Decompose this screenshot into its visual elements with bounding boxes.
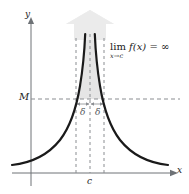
limit-approach-subscript: x→c <box>110 53 169 60</box>
limit-expression: lim f(x) = ∞ <box>110 42 169 52</box>
x-axis-label: x <box>177 166 182 175</box>
limit-annotation: lim f(x) = ∞ x→c <box>110 42 169 60</box>
infinite-limit-figure: y x M c δ δ lim f(x) = ∞ x→c <box>0 0 189 194</box>
x-axis <box>12 170 178 176</box>
function-expression: f(x) <box>129 41 146 52</box>
infinity-symbol: ∞ <box>161 41 169 52</box>
delta-left-label: δ <box>80 108 85 117</box>
delta-right-label: δ <box>95 108 100 117</box>
y-axis-label: y <box>25 10 30 19</box>
m-value-label: M <box>19 92 29 102</box>
equals-sign: = <box>149 41 157 52</box>
delta-dashed-lines <box>76 34 104 173</box>
c-value-label: c <box>87 177 92 186</box>
limit-operator: lim <box>110 41 126 52</box>
